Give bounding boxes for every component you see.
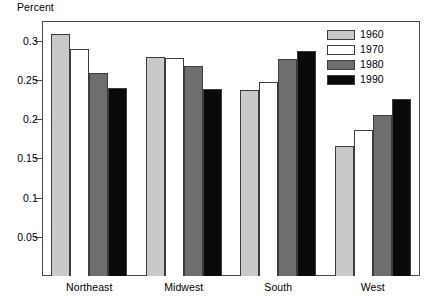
legend-item: 1990 [327, 74, 384, 85]
bar [51, 34, 70, 276]
bar [89, 73, 108, 276]
bar [297, 51, 316, 276]
x-axis-category-label: Northeast [66, 281, 112, 293]
y-axis-tick-label: 0.1 [23, 192, 38, 204]
y-axis-tick-label: 0.25 [17, 74, 38, 86]
bar-group [51, 21, 127, 276]
y-axis-tick-label: 0.3 [23, 35, 38, 47]
x-axis-category-label: South [264, 281, 292, 293]
legend-label: 1980 [360, 59, 384, 70]
legend-swatch [327, 60, 355, 70]
bar [278, 59, 297, 276]
x-axis-category-label: Midwest [164, 281, 203, 293]
y-axis-tick-label: 0.2 [23, 113, 38, 125]
y-axis-tick-label: 0.15 [17, 152, 38, 164]
legend-label: 1970 [360, 44, 384, 55]
legend-item: 1960 [327, 29, 384, 40]
legend-swatch [327, 75, 355, 85]
y-axis-tick-label: 0.05 [17, 231, 38, 243]
bar [240, 90, 259, 276]
bar [146, 57, 165, 276]
bar [392, 99, 411, 276]
bar [373, 115, 392, 276]
bar [335, 146, 354, 276]
legend-label: 1960 [360, 29, 384, 40]
bar [70, 49, 89, 276]
x-axis-category-label: West [361, 281, 385, 293]
bar-chart: Percent 0.050.10.150.20.250.3 NortheastM… [0, 0, 435, 307]
bar [259, 82, 278, 276]
bar [108, 88, 127, 276]
bar [184, 66, 203, 276]
legend-item: 1970 [327, 44, 384, 55]
bar-group [146, 21, 222, 276]
bar [354, 130, 373, 276]
legend-swatch [327, 45, 355, 55]
legend-item: 1980 [327, 59, 384, 70]
bar [165, 58, 184, 276]
y-axis-title: Percent [17, 1, 54, 13]
legend-swatch [327, 30, 355, 40]
legend: 1960197019801990 [327, 29, 384, 85]
bar-group [240, 21, 316, 276]
bar [203, 89, 222, 276]
legend-label: 1990 [360, 74, 384, 85]
